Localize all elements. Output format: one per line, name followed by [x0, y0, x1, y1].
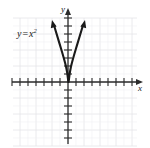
equation-operator: = [21, 28, 29, 39]
x-axis [12, 79, 143, 85]
curve-arrow-right-icon [80, 20, 86, 28]
equation-annotation: y=x2 [17, 29, 37, 39]
equation-exponent: 2 [34, 27, 37, 34]
coordinate-plane [0, 0, 150, 148]
y-axis-label: y [61, 5, 65, 14]
graph-figure: y x y=x2 [0, 0, 150, 148]
x-axis-label: x [138, 84, 142, 93]
y-axis-arrow-icon [65, 8, 71, 15]
